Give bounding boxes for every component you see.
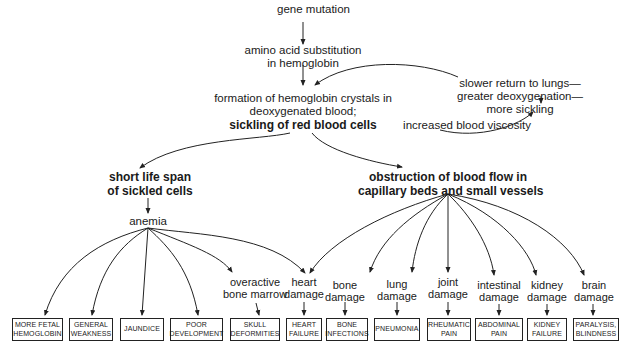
node-line: formation of hemoglobin crystals in (163, 92, 443, 105)
outcome-box-rheumatic-pain: RHEUMATICPAIN (427, 318, 471, 341)
node-line: damage (284, 288, 324, 300)
node-line: damage (377, 290, 417, 302)
node-line: heart (284, 276, 324, 288)
box-line: DEFORMITIES (231, 330, 280, 339)
box-line: KIDNEY (532, 321, 562, 330)
node-line: more sickling (420, 103, 620, 116)
outcome-box-pneumonia: PNEUMONIA (374, 318, 420, 341)
node-line: damage (325, 291, 365, 303)
node-line: intestinal (474, 279, 524, 291)
node-slower-return: slower return to lungs— greater deoxygen… (420, 77, 620, 116)
node-obstruction: obstruction of blood flow in capillary b… (358, 170, 538, 198)
node-line: damage (572, 291, 616, 303)
node-line: capillary beds and small vessels (358, 184, 538, 198)
box-line: BLINDNESS (576, 330, 617, 339)
node-anemia: anemia (118, 215, 178, 228)
box-line: GENERAL (71, 321, 111, 330)
outcome-box-skull-deformities: SKULLDEFORMITIES (230, 318, 280, 341)
node-intestinal-damage: intestinal damage (474, 279, 524, 303)
node-line: damage (428, 288, 468, 300)
node-line: greater deoxygenation— (420, 90, 620, 103)
box-line: DEVELOPMENT (170, 330, 224, 339)
node-joint-damage: joint damage (428, 276, 468, 300)
node-heart-damage: heart damage (284, 276, 324, 300)
outcome-box-general-weakness: GENERALWEAKNESS (69, 318, 113, 341)
box-line: HEMOGLOBIN (13, 330, 61, 339)
box-line: JAUNDICE (124, 325, 160, 334)
box-line: SKULL (231, 321, 280, 330)
node-brain-damage: brain damage (572, 279, 616, 303)
node-line: brain (572, 279, 616, 291)
node-line: in hemoglobin (203, 57, 403, 70)
node-kidney-damage: kidney damage (524, 279, 570, 303)
outcome-box-more-fetal-hemoglobin: MORE FETALHEMOGLOBIN (12, 318, 63, 341)
node-line: short life span (85, 170, 215, 184)
node-line: kidney (524, 279, 570, 291)
outcome-box-kidney-failure: KIDNEYFAILURE (527, 318, 567, 341)
outcome-box-heart-failure: HEARTFAILURE (286, 318, 322, 341)
outcome-box-abdominal-pain: ABDOMINALPAIN (475, 318, 523, 341)
box-line: PNEUMONIA (375, 325, 418, 334)
node-line: lung (377, 278, 417, 290)
box-line: FAILURE (289, 330, 319, 339)
node-lung-damage: lung damage (377, 278, 417, 302)
node-line: joint (428, 276, 468, 288)
box-line: PAIN (428, 330, 470, 339)
outcome-box-bone-infections: BONEINFECTIONS (326, 318, 368, 341)
box-line: PARALYSIS, (576, 321, 617, 330)
box-line: RHEUMATIC (428, 321, 470, 330)
node-gene-mutation: gene mutation (0, 3, 627, 16)
node-line: damage (474, 291, 524, 303)
node-line: damage (524, 291, 570, 303)
outcome-box-poor-development: POORDEVELOPMENT (170, 318, 223, 341)
node-short-life-span: short life span of sickled cells (85, 170, 215, 198)
node-line: obstruction of blood flow in (358, 170, 538, 184)
box-line: WEAKNESS (71, 330, 111, 339)
box-line: ABDOMINAL (478, 321, 520, 330)
box-line: HEART (289, 321, 319, 330)
outcome-box-paralysis-blindness: PARALYSIS,BLINDNESS (573, 318, 619, 341)
box-line: MORE FETAL (13, 321, 61, 330)
node-line: amino acid substitution (203, 44, 403, 57)
outcome-box-jaundice: JAUNDICE (120, 318, 164, 341)
node-increased-viscosity: increased blood viscosity (392, 119, 542, 132)
box-line: FAILURE (532, 330, 562, 339)
node-line: slower return to lungs— (420, 77, 620, 90)
node-line: bone (325, 279, 365, 291)
box-line: PAIN (478, 330, 520, 339)
node-line: of sickled cells (85, 184, 215, 198)
node-bone-damage: bone damage (325, 279, 365, 303)
box-line: POOR (170, 321, 224, 330)
node-amino-acid-substitution: amino acid substitution in hemoglobin (203, 44, 403, 70)
box-line: INFECTIONS (325, 330, 368, 339)
box-line: BONE (325, 321, 368, 330)
node-line: deoxygenated blood; (163, 105, 443, 118)
